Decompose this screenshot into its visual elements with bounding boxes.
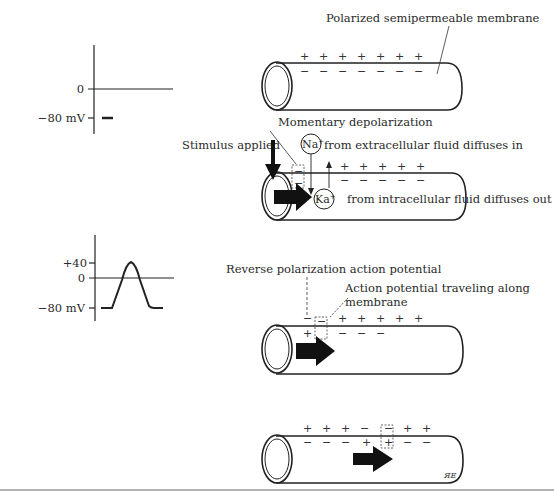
svg-text:−: − xyxy=(376,327,385,340)
axon-end-outer xyxy=(262,62,292,110)
svg-text:−: − xyxy=(403,436,412,449)
svg-text:+: + xyxy=(319,50,328,63)
momentary-depolarization-label: Momentary depolarization xyxy=(278,115,433,129)
svg-text:+: + xyxy=(403,422,412,435)
outer-charges: + + + + + + + xyxy=(300,50,423,63)
svg-text:+: + xyxy=(376,312,385,325)
action-potential-graph: +40 0 −80 mV xyxy=(38,235,174,321)
action-potential-diagram: 0 −80 mV +40 0 −80 mV + + + + + + + − − … xyxy=(0,0,554,498)
svg-text:−: − xyxy=(397,174,406,187)
axon-end-outer xyxy=(262,325,292,373)
svg-text:−: − xyxy=(414,65,423,78)
axon-end-inner xyxy=(265,329,289,369)
svg-text:+: + xyxy=(303,327,312,340)
inner-charges: − − − + + − − xyxy=(303,436,431,449)
svg-text:−: − xyxy=(378,174,387,187)
membrane-leader-line xyxy=(437,26,449,74)
impulse-arrow-icon xyxy=(274,183,312,211)
impulse-arrow-icon xyxy=(353,446,393,472)
membrane-label: Polarized semipermeable membrane xyxy=(326,11,540,25)
outer-charges: + + + + + xyxy=(340,160,425,173)
axon-end-inner xyxy=(265,439,289,479)
tick-label-zero: 0 xyxy=(78,271,85,285)
svg-text:+: + xyxy=(422,422,431,435)
svg-text:+: + xyxy=(341,422,350,435)
tick-label-minus80: −80 mV xyxy=(38,111,86,125)
resting-potential-graph: 0 −80 mV xyxy=(38,45,173,134)
svg-text:−: − xyxy=(317,315,326,328)
axon-polarized: + + + + + + + − − − − − − − Polarized se… xyxy=(262,11,540,110)
svg-text:−: − xyxy=(416,174,425,187)
na-description: from extracellular fluid diffuses in xyxy=(324,138,524,152)
svg-text:+: + xyxy=(338,312,347,325)
svg-text:−: − xyxy=(319,65,328,78)
axon-depolarization: Momentary depolarization Stimulus applie… xyxy=(182,115,552,220)
svg-text:−: − xyxy=(360,422,369,435)
svg-text:−: − xyxy=(357,327,366,340)
tick-label-minus80: −80 mV xyxy=(38,301,86,315)
svg-text:+: + xyxy=(357,312,366,325)
svg-text:−: − xyxy=(340,174,349,187)
svg-text:−: − xyxy=(395,65,404,78)
stimulus-label: Stimulus applied xyxy=(182,138,281,152)
svg-text:+: + xyxy=(362,436,371,449)
svg-text:−: − xyxy=(303,436,312,449)
svg-text:−: − xyxy=(322,436,331,449)
svg-text:−: − xyxy=(384,422,393,435)
reverse-polarization-label: Reverse polarization action potential xyxy=(226,262,442,276)
ka-outflow-arrowhead-icon xyxy=(326,161,332,168)
svg-text:+: + xyxy=(300,50,309,63)
svg-text:−: − xyxy=(376,65,385,78)
svg-text:−: − xyxy=(303,312,312,325)
traveling-label-line1: Action potential traveling along xyxy=(344,281,531,295)
tick-label-zero: 0 xyxy=(77,82,84,96)
svg-text:+: + xyxy=(395,312,404,325)
inner-charges: − − − xyxy=(338,327,385,340)
traveling-label-line2: membrane xyxy=(345,295,408,309)
svg-text:+: + xyxy=(359,160,368,173)
svg-text:+: + xyxy=(397,160,406,173)
svg-text:+: + xyxy=(414,312,423,325)
svg-text:+: + xyxy=(416,160,425,173)
svg-text:−: − xyxy=(359,174,368,187)
svg-text:+: + xyxy=(376,50,385,63)
action-potential-trace xyxy=(101,262,163,308)
axon-end-inner xyxy=(265,66,289,106)
svg-text:−: − xyxy=(422,436,431,449)
svg-text:−: − xyxy=(338,65,347,78)
svg-text:−: − xyxy=(341,436,350,449)
svg-text:+: + xyxy=(395,50,404,63)
svg-text:+: + xyxy=(384,436,393,449)
na-inflow-arrowhead-icon xyxy=(308,188,314,195)
svg-text:+: + xyxy=(378,160,387,173)
axon-end-outer xyxy=(262,435,292,483)
axon-propagation: + + + − − + + − − − + + − − ЯΕ xyxy=(262,422,463,483)
svg-text:+: + xyxy=(340,160,349,173)
ka-description: from intracellular fluid diffuses out xyxy=(347,192,552,206)
axon-reverse-polarization: Reverse polarization action potential Ac… xyxy=(226,262,531,374)
svg-text:+: + xyxy=(414,50,423,63)
artist-signature: ЯΕ xyxy=(443,471,456,480)
tick-label-plus40: +40 xyxy=(63,256,87,270)
outer-charges: + + + + + xyxy=(338,312,423,325)
svg-text:+: + xyxy=(303,422,312,435)
outer-charges: + + + − − + + xyxy=(303,422,431,435)
impulse-arrow-icon xyxy=(296,336,335,366)
na-ion-label: Na+ xyxy=(302,138,324,151)
svg-text:−: − xyxy=(357,65,366,78)
inner-charges: − − − − − − − xyxy=(300,65,423,78)
inner-charges: − − − − − xyxy=(340,174,425,187)
svg-text:+: + xyxy=(322,422,331,435)
svg-text:−: − xyxy=(338,327,347,340)
svg-text:−: − xyxy=(300,65,309,78)
svg-text:+: + xyxy=(357,50,366,63)
svg-text:+: + xyxy=(338,50,347,63)
